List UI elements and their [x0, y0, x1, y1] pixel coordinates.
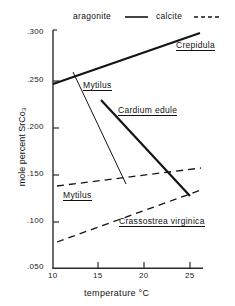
x-axis-title: temperature °C: [84, 288, 149, 298]
y-tick-label-250: .250: [27, 75, 44, 84]
y-tick-label-150: .150: [27, 169, 44, 178]
legend-label-aragonite: aragonite: [73, 11, 111, 21]
series-label-cardium-edule: Cardium edule: [118, 105, 177, 116]
legend-label-calcite: calcite: [156, 11, 182, 21]
x-tick-label-20: 20: [139, 271, 149, 280]
y-tick-label-050: .050: [27, 262, 44, 271]
y-tick-label-300: .300: [27, 27, 44, 36]
x-tick-label-10: 10: [48, 271, 58, 280]
y-tick-label-200: .200: [27, 122, 44, 131]
series-label-mytilus-calcite: Mytilus: [63, 190, 92, 201]
y-axis-ticks: [53, 81, 59, 222]
series-label-mytilus-aragonite: Mytilus: [83, 80, 112, 91]
axis-lines: [52, 30, 203, 269]
x-axis-ticks: [98, 262, 190, 268]
y-axis-title-wrapper: mole percent SrCo₃: [11, 101, 29, 193]
y-tick-label-100: .100: [27, 216, 44, 225]
series-label-crepidula: Crepidula: [176, 40, 215, 51]
x-tick-label-25: 25: [185, 271, 195, 280]
x-tick-label-15: 15: [93, 271, 103, 280]
y-axis-title: mole percent SrCo₃: [17, 108, 27, 187]
series-label-crassostrea-virginica: Crassostrea virginica: [119, 216, 205, 227]
chart-figure: aragonite calcite .300 .250 .200 .150 .1…: [0, 0, 235, 306]
